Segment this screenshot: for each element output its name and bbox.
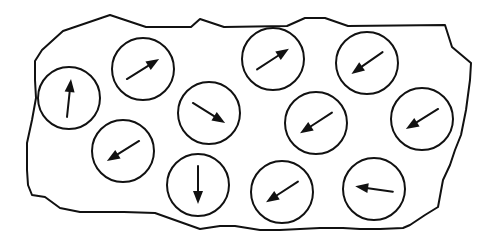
arrow-head-icon: [65, 79, 75, 92]
arrow-shaft: [127, 66, 148, 79]
arrow-head-icon: [300, 122, 314, 133]
arrow-shaft: [277, 182, 298, 196]
domain-diagram: [0, 0, 495, 246]
arrow-shaft: [311, 113, 332, 127]
arrow-shaft: [257, 56, 278, 70]
arrow-head-icon: [275, 49, 289, 60]
domain-d8: [285, 92, 347, 154]
arrow-shaft: [417, 109, 438, 122]
domain-d9: [391, 88, 453, 150]
arrow-head-icon: [406, 118, 420, 129]
domain-d4: [92, 120, 154, 182]
arrow-shaft: [362, 52, 382, 66]
arrow-head-icon: [355, 183, 369, 193]
arrow-head-icon: [266, 191, 280, 202]
arrow-head-icon: [211, 112, 225, 123]
domain-d6: [242, 28, 304, 90]
arrow-shaft: [193, 103, 214, 116]
domain-d2: [112, 38, 174, 100]
arrow-head-icon: [145, 59, 159, 70]
domain-d7: [336, 32, 398, 94]
arrow-shaft: [118, 141, 139, 154]
domains-layer: [38, 28, 453, 223]
arrow-shaft: [368, 188, 393, 191]
arrow-head-icon: [193, 191, 203, 204]
arrow-shaft: [67, 92, 70, 117]
arrow-head-icon: [351, 62, 365, 74]
domain-d1: [38, 67, 100, 129]
domain-d5: [167, 154, 229, 216]
domain-d10: [251, 161, 313, 223]
arrow-head-icon: [107, 150, 121, 161]
domain-d3: [178, 82, 240, 144]
domain-d11: [343, 158, 405, 220]
